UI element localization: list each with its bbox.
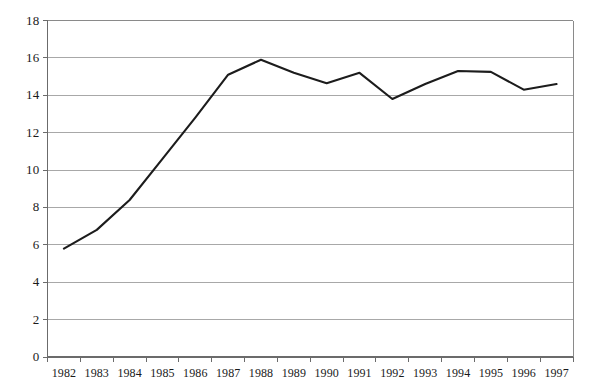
y-axis-label-16: 16: [26, 50, 39, 66]
y-axis-label-10: 10: [26, 162, 39, 178]
x-axis-label-1983: 1983: [80, 366, 113, 381]
x-axis-label-1993: 1993: [409, 366, 442, 381]
y-axis-label-12: 12: [26, 125, 39, 141]
y-axis-label-4: 4: [33, 274, 40, 290]
x-axis-label-1989: 1989: [277, 366, 310, 381]
x-axis-label-1986: 1986: [179, 366, 212, 381]
x-axis-label-1982: 1982: [48, 366, 81, 381]
y-axis-label-0: 0: [33, 349, 40, 365]
x-axis-label-1997: 1997: [540, 366, 573, 381]
y-axis-label-6: 6: [33, 237, 40, 253]
y-axis-label-18: 18: [26, 13, 39, 29]
data-series: [64, 60, 557, 249]
x-axis-label-1985: 1985: [146, 366, 179, 381]
x-axis-ticks: [48, 357, 574, 362]
x-axis-label-1991: 1991: [343, 366, 376, 381]
plot-frame: [48, 21, 574, 358]
y-axis-label-14: 14: [26, 87, 39, 103]
line-chart: 024681012141618 198219831984198519861987…: [0, 0, 592, 390]
x-axis-label-1987: 1987: [212, 366, 245, 381]
x-axis-label-1992: 1992: [376, 366, 409, 381]
x-axis-label-1996: 1996: [507, 366, 540, 381]
x-axis-label-1995: 1995: [474, 366, 507, 381]
x-axis-label-1988: 1988: [245, 366, 278, 381]
chart-plot-area: [0, 0, 592, 390]
x-axis-label-1990: 1990: [310, 366, 343, 381]
series-line-series-1: [64, 60, 557, 249]
y-axis-ticks: [43, 21, 48, 358]
y-axis-label-8: 8: [33, 199, 40, 215]
gridlines: [48, 58, 574, 320]
y-axis-label-2: 2: [33, 312, 40, 328]
x-axis-label-1994: 1994: [442, 366, 475, 381]
x-axis-label-1984: 1984: [113, 366, 146, 381]
